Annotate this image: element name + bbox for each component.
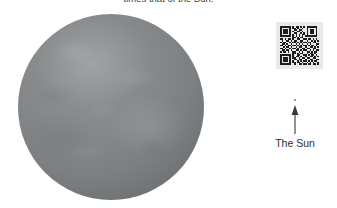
arrow-up-icon [288, 104, 302, 134]
star-limb-darkening [18, 14, 204, 200]
figure-caption: times that of the Sun. [0, 0, 337, 5]
figure-canvas: times that of the Sun. The Sun [0, 0, 337, 208]
star-disc [18, 14, 204, 200]
qr-code-modules [280, 26, 319, 65]
sun-dot [294, 99, 296, 101]
qr-code[interactable] [276, 22, 323, 69]
qr-code-canvas [280, 26, 319, 65]
sun-label: The Sun [256, 137, 334, 150]
caption-clip: times that of the Sun. [0, 0, 337, 7]
star-image [18, 14, 204, 208]
